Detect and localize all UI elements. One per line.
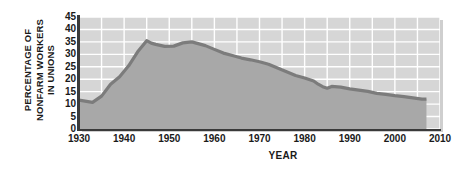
x-axis-title-text: YEAR (269, 150, 298, 161)
chart-canvas (79, 17, 440, 129)
x-tick-1980: 1980 (283, 133, 327, 144)
y-tick-45: 45 (54, 12, 76, 22)
y-tick-30: 30 (54, 49, 76, 59)
y-axis-title-line-1: PERCENTAGE OF (22, 19, 34, 121)
x-axis-title: YEAR (0, 150, 470, 161)
plot-area (79, 17, 440, 129)
x-tick-1950: 1950 (147, 133, 191, 144)
y-tick-5: 5 (54, 112, 76, 122)
x-tick-1990: 1990 (328, 133, 372, 144)
x-tick-2010: 2010 (418, 133, 462, 144)
y-tick-35: 35 (54, 37, 76, 47)
y-tick-20: 20 (54, 74, 76, 84)
y-tick-10: 10 (54, 99, 76, 109)
y-axis-tick-labels: 051015202530354045 (52, 0, 76, 140)
x-tick-1970: 1970 (238, 133, 282, 144)
y-tick-25: 25 (54, 62, 76, 72)
y-tick-40: 40 (54, 24, 76, 34)
x-axis-tick-labels: 193019401950196019701980199020002010 (0, 133, 470, 147)
x-tick-1960: 1960 (192, 133, 236, 144)
chart-figure: PERCENTAGE OF NONFARM WORKERS IN UNIONS … (0, 0, 470, 174)
y-axis-title-line-2: NONFARM WORKERS (33, 19, 45, 121)
x-axis-line (77, 129, 441, 132)
y-tick-15: 15 (54, 87, 76, 97)
x-tick-1930: 1930 (57, 133, 101, 144)
x-tick-2000: 2000 (373, 133, 417, 144)
x-tick-1940: 1940 (102, 133, 146, 144)
y-axis-line (77, 15, 80, 131)
